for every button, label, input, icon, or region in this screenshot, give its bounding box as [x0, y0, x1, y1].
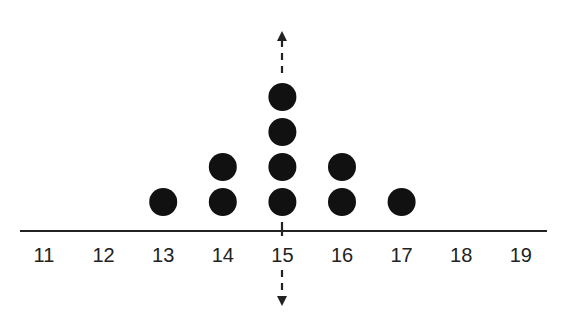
x-tick-label: 18: [450, 244, 472, 267]
data-dot: [209, 153, 237, 181]
arrow-down-icon: [277, 296, 287, 306]
x-tick-label: 11: [34, 244, 55, 267]
data-dot: [328, 188, 356, 216]
data-dot: [268, 188, 296, 216]
x-tick-label: 13: [152, 244, 174, 267]
dots-group: [149, 83, 415, 216]
x-tick-label: 19: [510, 244, 532, 267]
data-dot: [149, 188, 177, 216]
x-tick-label: 15: [271, 244, 293, 267]
x-tick-label: 17: [390, 244, 412, 267]
x-tick-label: 12: [92, 244, 114, 267]
x-tick-label: 16: [331, 244, 353, 267]
data-dot: [388, 188, 416, 216]
data-dot: [328, 153, 356, 181]
dot-plot: [0, 0, 561, 331]
arrow-up-icon: [277, 31, 287, 41]
data-dot: [268, 153, 296, 181]
data-dot: [268, 118, 296, 146]
data-dot: [209, 188, 237, 216]
data-dot: [268, 83, 296, 111]
x-tick-label: 14: [212, 244, 234, 267]
